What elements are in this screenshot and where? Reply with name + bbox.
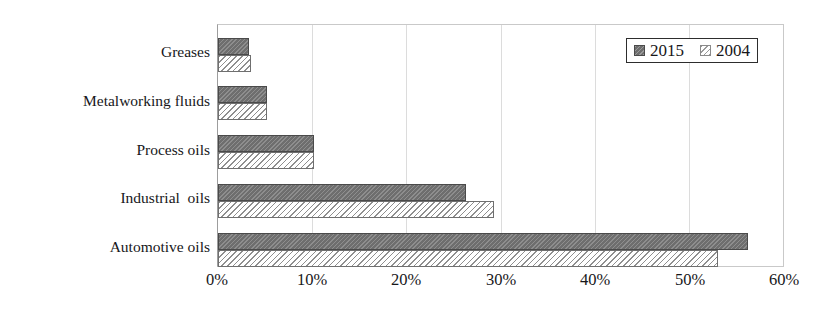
value-axis-labels: 0% 10% 20% 30% 40% 50% 60% — [0, 272, 836, 302]
bar-automotive-oils-2004 — [218, 250, 718, 267]
category-label-metalworking-fluids: Metalworking fluids — [83, 93, 210, 109]
legend-label-2004: 2004 — [716, 42, 750, 59]
category-axis-labels: Greases Metalworking fluids Process oils… — [0, 24, 214, 267]
gridline-20 — [406, 25, 407, 266]
bar-metalworking-fluids-2004 — [218, 103, 267, 120]
bar-greases-2015 — [218, 38, 249, 55]
dark-solid-square-icon — [634, 45, 645, 56]
bar-process-oils-2004 — [218, 152, 314, 169]
hatched-square-icon — [700, 45, 711, 56]
category-label-industrial-oils: Industrial oils — [120, 190, 210, 206]
gridline-40 — [595, 25, 596, 266]
bar-automotive-oils-2015 — [218, 233, 748, 250]
legend-label-2015: 2015 — [650, 42, 684, 59]
legend-entry-2015: 2015 — [634, 42, 684, 59]
bar-greases-2004 — [218, 55, 251, 72]
bar-industrial-oils-2015 — [218, 184, 466, 201]
gridline-30 — [501, 25, 502, 266]
bar-industrial-oils-2004 — [218, 201, 494, 218]
bar-process-oils-2015 — [218, 135, 314, 152]
bar-metalworking-fluids-2015 — [218, 86, 267, 103]
tick-label-0: 0% — [206, 272, 228, 289]
horizontal-bar-chart: Greases Metalworking fluids Process oils… — [0, 0, 836, 327]
tick-label-30: 30% — [486, 272, 516, 289]
tick-label-10: 10% — [297, 272, 327, 289]
legend-entry-2004: 2004 — [700, 42, 750, 59]
category-label-automotive-oils: Automotive oils — [110, 239, 210, 255]
category-label-process-oils: Process oils — [136, 142, 210, 158]
category-label-greases: Greases — [161, 44, 210, 60]
tick-label-20: 20% — [391, 272, 421, 289]
tick-label-50: 50% — [675, 272, 705, 289]
tick-label-60: 60% — [769, 272, 799, 289]
chart-legend: 2015 2004 — [626, 38, 758, 63]
tick-label-40: 40% — [580, 272, 610, 289]
